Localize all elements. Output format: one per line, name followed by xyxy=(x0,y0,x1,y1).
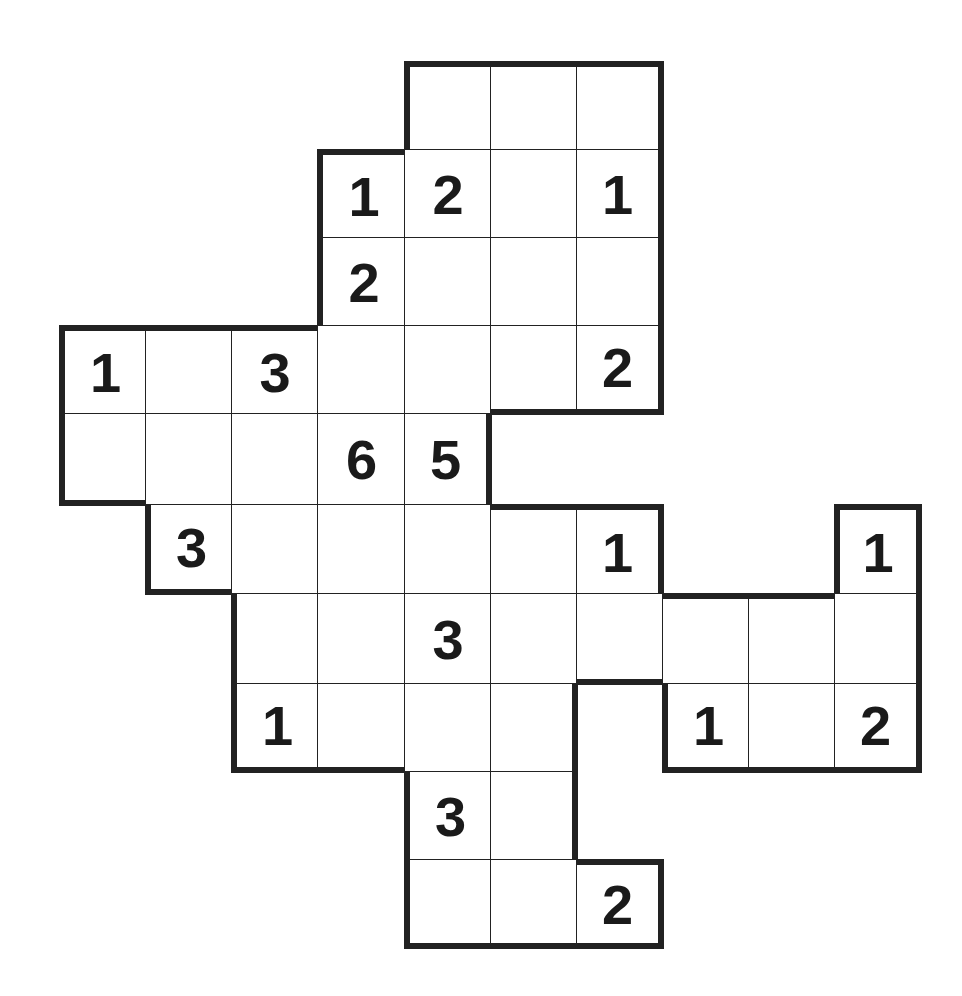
clue-cell[interactable]: 1 xyxy=(576,504,664,595)
empty-cell[interactable] xyxy=(231,504,319,595)
empty-cell[interactable] xyxy=(404,61,492,151)
empty-cell[interactable] xyxy=(576,593,664,685)
clue-cell[interactable]: 1 xyxy=(59,325,147,415)
empty-cell[interactable] xyxy=(404,504,492,595)
clue-cell[interactable]: 1 xyxy=(662,683,750,773)
empty-cell[interactable] xyxy=(404,237,492,327)
clue-cell[interactable]: 2 xyxy=(317,237,406,327)
empty-cell[interactable] xyxy=(317,504,406,595)
empty-cell[interactable] xyxy=(317,325,406,415)
clue-cell[interactable]: 3 xyxy=(145,504,233,595)
empty-cell[interactable] xyxy=(59,413,147,506)
empty-cell[interactable] xyxy=(231,593,319,685)
empty-cell[interactable] xyxy=(145,413,233,506)
empty-cell[interactable] xyxy=(490,504,578,595)
empty-cell[interactable] xyxy=(317,683,406,773)
empty-cell[interactable] xyxy=(404,325,492,415)
clue-cell[interactable]: 1 xyxy=(576,149,664,239)
empty-cell[interactable] xyxy=(404,683,492,773)
empty-cell[interactable] xyxy=(576,237,664,327)
clue-cell[interactable]: 5 xyxy=(404,413,492,506)
empty-cell[interactable] xyxy=(404,859,492,949)
clue-cell[interactable]: 2 xyxy=(834,683,922,773)
clue-cell[interactable]: 1 xyxy=(231,683,319,773)
empty-cell[interactable] xyxy=(490,149,578,239)
empty-cell[interactable] xyxy=(748,593,836,685)
clue-cell[interactable]: 2 xyxy=(576,325,664,415)
empty-cell[interactable] xyxy=(490,593,578,685)
empty-cell[interactable] xyxy=(490,683,578,773)
empty-cell[interactable] xyxy=(576,61,664,151)
clue-cell[interactable]: 3 xyxy=(404,771,492,861)
empty-cell[interactable] xyxy=(490,859,578,949)
empty-cell[interactable] xyxy=(490,771,578,861)
clue-cell[interactable]: 1 xyxy=(317,149,406,239)
empty-cell[interactable] xyxy=(490,61,578,151)
clue-cell[interactable]: 2 xyxy=(404,149,492,239)
empty-cell[interactable] xyxy=(231,413,319,506)
puzzle-board: 121213265311311232 xyxy=(0,0,962,996)
empty-cell[interactable] xyxy=(490,325,578,415)
clue-cell[interactable]: 3 xyxy=(231,325,319,415)
clue-cell[interactable]: 2 xyxy=(576,859,664,949)
empty-cell[interactable] xyxy=(834,593,922,685)
clue-cell[interactable]: 3 xyxy=(404,593,492,685)
empty-cell[interactable] xyxy=(317,593,406,685)
empty-cell[interactable] xyxy=(748,683,836,773)
empty-cell[interactable] xyxy=(662,593,750,685)
empty-cell[interactable] xyxy=(145,325,233,415)
clue-cell[interactable]: 6 xyxy=(317,413,406,506)
empty-cell[interactable] xyxy=(490,237,578,327)
clue-cell[interactable]: 1 xyxy=(834,504,922,595)
